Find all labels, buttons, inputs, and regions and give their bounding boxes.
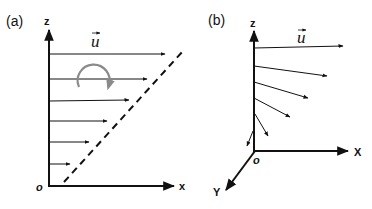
y-axis-label: Y <box>213 186 221 198</box>
z-axis-label: z <box>44 15 50 27</box>
spiral-velocity-arrows <box>247 46 343 146</box>
panel-b-label: (b) <box>208 12 225 28</box>
u-vector-label: u <box>297 28 306 47</box>
panel-a: (a) z x o u <box>6 13 186 193</box>
y-axis <box>226 151 255 190</box>
origin-label: o <box>253 154 260 166</box>
x-axis-label: X <box>354 146 362 158</box>
u-vector-label: u <box>91 32 100 51</box>
svg-text:u: u <box>91 32 100 51</box>
panel-a-label: (a) <box>6 13 23 29</box>
rotation-arrow-icon <box>78 65 110 87</box>
origin-label: o <box>36 181 43 193</box>
svg-text:u: u <box>297 28 306 47</box>
diagram-canvas: (a) z x o u (b) z X Y o <box>0 0 372 209</box>
x-axis-label: x <box>179 180 186 192</box>
z-axis-label: z <box>250 17 256 29</box>
panel-b: (b) z X Y o u <box>208 12 362 198</box>
